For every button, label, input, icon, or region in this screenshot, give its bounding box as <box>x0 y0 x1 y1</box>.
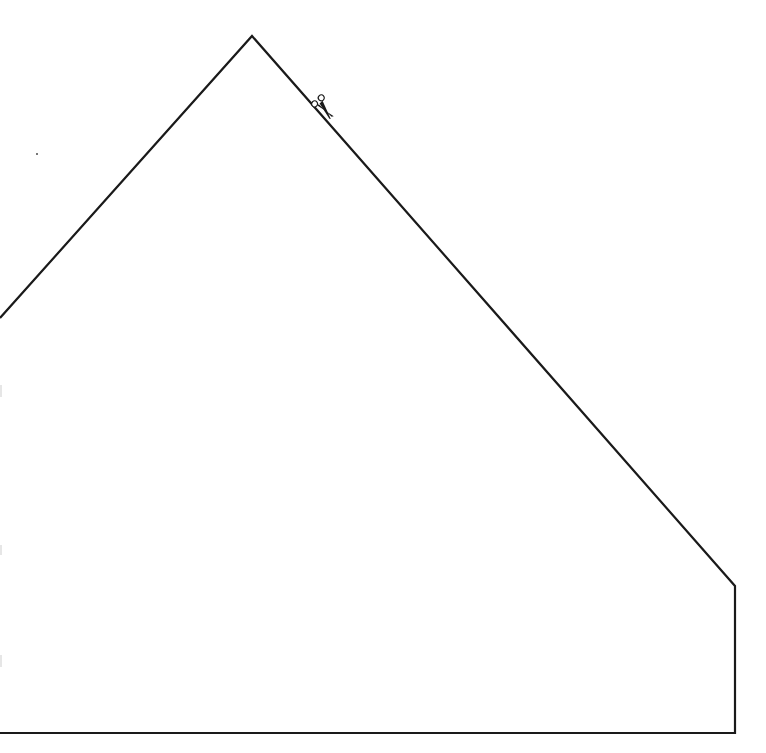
left-edge-mark <box>0 385 2 397</box>
stray-dot <box>36 153 38 155</box>
left-edge-mark <box>0 655 2 667</box>
cut-outline <box>0 36 735 733</box>
left-edge-mark <box>0 545 2 555</box>
template-canvas <box>0 0 766 753</box>
